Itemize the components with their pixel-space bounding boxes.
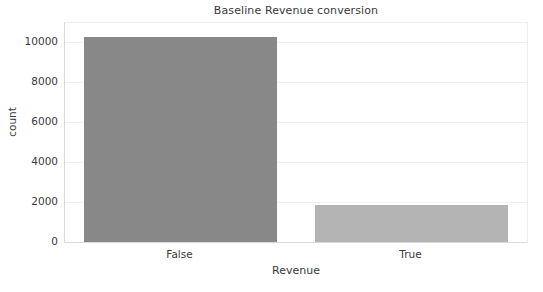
plot-area — [64, 22, 528, 243]
y-axis-tick-label: 10000 — [4, 35, 58, 47]
x-axis-label: Revenue — [64, 264, 528, 277]
bar-false — [84, 37, 277, 242]
y-axis-tick-label: 4000 — [4, 155, 58, 167]
chart-title: Baseline Revenue conversion — [64, 4, 528, 17]
x-axis-tick-label: False — [166, 248, 192, 260]
y-axis-label: count — [6, 92, 18, 152]
y-axis-tick-label: 0 — [4, 235, 58, 247]
y-axis-tick-label: 2000 — [4, 195, 58, 207]
bar-chart-figure: Baseline Revenue conversion 020004000600… — [0, 0, 543, 292]
y-axis-tick-label: 8000 — [4, 75, 58, 87]
x-axis-tick-label: True — [399, 248, 421, 260]
bar-true — [315, 205, 508, 242]
